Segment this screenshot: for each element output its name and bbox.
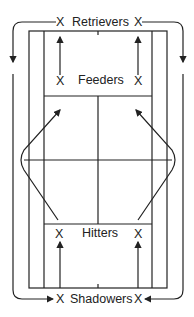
- feeders-label: Feeders: [76, 74, 126, 87]
- retriever-left-marker: X: [56, 16, 64, 29]
- hitter-left-path: [21, 110, 60, 220]
- hitter-right-marker: X: [134, 228, 142, 241]
- hitter-left-marker: X: [55, 228, 63, 241]
- retriever-right-marker: X: [134, 16, 142, 29]
- retrievers-label: Retrievers: [70, 16, 131, 29]
- court-diagram: [0, 0, 194, 317]
- shadowers-label: Shadowers: [68, 293, 135, 306]
- hitter-right-path: [136, 110, 175, 220]
- shadower-right-marker: X: [134, 293, 142, 306]
- rotation-arrow-left-top: [13, 22, 56, 62]
- feeder-left-marker: X: [56, 75, 64, 88]
- hitters-label: Hitters: [80, 227, 120, 240]
- rotation-arrow-right-top: [142, 22, 183, 62]
- shadower-left-marker: X: [56, 293, 64, 306]
- feeder-right-marker: X: [134, 75, 142, 88]
- rotation-arrow-right-bottom: [145, 74, 183, 299]
- rotation-arrow-left-bottom: [13, 74, 53, 299]
